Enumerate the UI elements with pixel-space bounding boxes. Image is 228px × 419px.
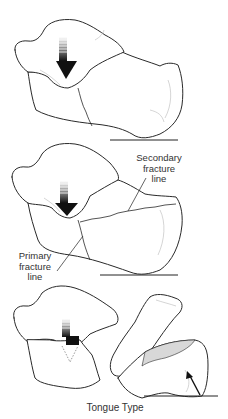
talus-bone [14,286,118,348]
secondary-fracture-line-label: Secondary fracture line [130,153,188,185]
tongue-type-fracture-illustration [0,0,228,419]
primary-fracture-line-label: Primary fracture line [10,251,60,283]
panel-1 [15,19,183,140]
figure-caption: Tongue Type [60,402,170,413]
panel-3 [14,286,218,398]
anterior-calcaneus-fragment [27,340,100,388]
